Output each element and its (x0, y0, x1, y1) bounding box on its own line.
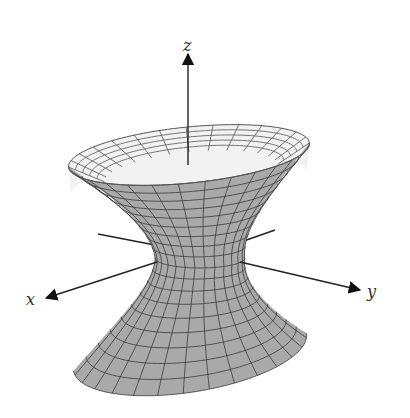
x-axis-label: x (26, 290, 35, 309)
z-axis-label: z (183, 36, 191, 55)
hyperboloid-figure: z x y (0, 0, 410, 418)
y-axis-label: y (367, 282, 376, 301)
hyperboloid-plot (0, 0, 410, 418)
hyperboloid-surface (69, 125, 310, 396)
